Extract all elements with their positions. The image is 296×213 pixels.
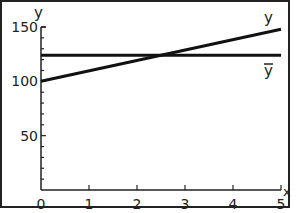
data-lines (41, 29, 281, 81)
x-tick-label: 4 (229, 196, 238, 212)
x-tick-label: 2 (133, 196, 142, 212)
axes: 01234550100150 (11, 19, 285, 212)
plot-area: 01234550100150 y x y y (0, 0, 296, 213)
x-axis-label: x (283, 184, 291, 199)
chart: 01234550100150 y x y y (0, 0, 296, 213)
y-tick-label: 50 (20, 128, 38, 144)
y-axis-label: y (34, 4, 43, 22)
line-label-y: y (264, 9, 273, 27)
x-tick-label: 0 (37, 196, 46, 212)
y-tick-label: 100 (11, 73, 38, 89)
x-tick-label: 1 (85, 196, 94, 212)
x-tick-label: 3 (181, 196, 190, 212)
